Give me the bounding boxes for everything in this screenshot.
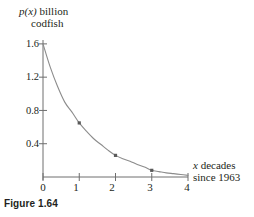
- data-point-marker: [114, 154, 117, 157]
- data-point-marker: [78, 121, 81, 124]
- figure-caption: Figure 1.64: [4, 198, 58, 209]
- figure-container: p(x) billion codfish x decades since 196…: [0, 0, 254, 217]
- data-point-markers: [78, 121, 154, 172]
- axes-group: [43, 40, 188, 180]
- data-point-marker: [150, 169, 153, 172]
- tick-marks-group: [39, 44, 188, 181]
- plot-area: [0, 0, 254, 217]
